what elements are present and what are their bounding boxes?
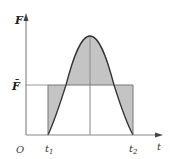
x-axis-label: t <box>157 141 162 152</box>
avg-force-label: F̄ <box>11 79 21 93</box>
impulse-diagram: F F̄ O t1 t2 t <box>0 0 176 159</box>
y-axis-arrow-icon <box>24 13 29 21</box>
t2-label: t2 <box>129 143 138 156</box>
origin-label: O <box>16 144 24 155</box>
x-axis-arrow-icon <box>155 133 163 138</box>
t1-label: t1 <box>45 143 54 156</box>
y-axis-label: F <box>14 14 24 27</box>
